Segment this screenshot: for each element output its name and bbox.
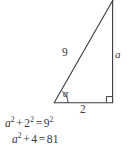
eq1-rhs-exponent: 2 <box>50 115 54 124</box>
eq1-plus-operator: + <box>15 117 25 129</box>
adjacent-side-label: 2 <box>80 103 86 115</box>
right-angle-marker-icon <box>106 97 112 103</box>
eq2-plus-operator: + <box>22 133 32 145</box>
equation-line-2: a2+4=81 <box>0 133 127 145</box>
eq2-equals-operator: = <box>37 133 47 145</box>
diagram-page: 9 a 2 α a2+22=92 a2+4=81 <box>0 0 127 153</box>
hypotenuse-label: 9 <box>62 46 68 58</box>
opposite-side-label: a <box>115 48 121 60</box>
eq2-rhs: 81 <box>47 133 59 145</box>
eq1-equals-operator: = <box>34 117 44 129</box>
equation-line-1: a2+22=92 <box>0 117 127 129</box>
angle-label-alpha: α <box>63 88 68 99</box>
